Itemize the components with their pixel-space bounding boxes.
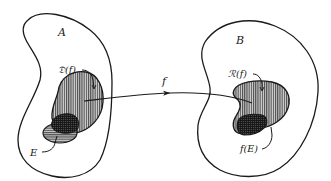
subset-e-label: E (29, 147, 38, 158)
mapping-arrow-label: f (161, 75, 168, 88)
domain-of-f-label: 𝔇(f) (58, 64, 76, 75)
image-f-e-label: f(E) (239, 143, 258, 154)
e-intersect-domain-region (52, 114, 79, 133)
function-mapping-diagram: A B 𝔇(f) E ℛ(f) f(E) f (0, 0, 331, 181)
image-f-e-region (237, 114, 267, 135)
fe-label-leader (262, 127, 272, 149)
set-a-label: A (57, 26, 66, 39)
range-of-f-label: ℛ(f) (228, 68, 247, 79)
set-b-label: B (235, 34, 244, 47)
